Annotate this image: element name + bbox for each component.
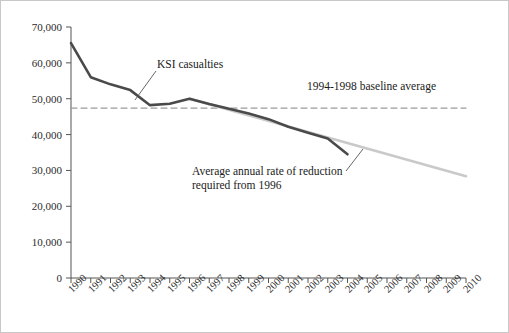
y-axis-tick-label: 30,000: [1, 164, 62, 176]
annotation-rate-of-reduction-line-1: Average annual rate of reduction: [192, 164, 343, 178]
y-axis-tick-label: 50,000: [1, 93, 62, 105]
annotation-baseline-average: 1994-1998 baseline average: [307, 79, 436, 93]
y-axis-tick-label: 40,000: [1, 129, 62, 141]
annotation-rate-of-reduction-line-2: required from 1996: [192, 178, 343, 192]
y-axis-tick-label: 70,000: [1, 21, 62, 33]
y-axis-tick-label: 0: [1, 272, 62, 284]
y-axis-tick-label: 10,000: [1, 236, 62, 248]
y-axis-tick-label: 20,000: [1, 200, 62, 212]
annotation-ksi-casualties: KSI casualties: [157, 57, 223, 71]
chart-series-group: [71, 43, 466, 176]
chart-figure: 010,00020,00030,00040,00050,00060,00070,…: [0, 0, 509, 333]
annotation-baseline-average-line-1: 1994-1998 baseline average: [307, 79, 436, 93]
y-axis-ticks: [66, 27, 71, 278]
ksi-leader-line: [135, 71, 156, 100]
axis-lines: [71, 27, 466, 278]
reduction-leader-line: [346, 149, 363, 171]
annotation-rate-of-reduction: Average annual rate of reduction require…: [192, 164, 343, 192]
annotation-ksi-casualties-line-1: KSI casualties: [157, 57, 223, 71]
y-axis-tick-label: 60,000: [1, 57, 62, 69]
